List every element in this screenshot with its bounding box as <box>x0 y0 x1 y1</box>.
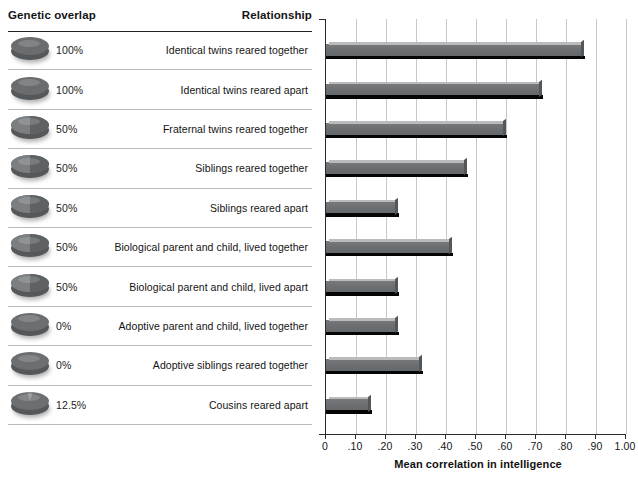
bar-end-cap <box>503 119 506 136</box>
table-row: 100%Identical twins reared apart <box>8 70 312 109</box>
relationship-label: Cousins reared apart <box>209 399 308 411</box>
table-row: 50%Biological parent and child, lived to… <box>8 228 312 267</box>
bar <box>326 318 398 335</box>
gridline <box>626 19 627 434</box>
bar <box>326 279 398 296</box>
relationship-table: Genetic overlap Relationship 100%Identic… <box>0 0 318 479</box>
bar <box>326 357 422 374</box>
disc-top-face <box>11 234 49 252</box>
genetic-overlap-disc-icon <box>10 312 52 340</box>
disc-top-face <box>11 77 49 95</box>
bar-shadow <box>326 95 543 98</box>
x-axis-tick-label: 0 <box>322 440 328 452</box>
disc-top-face <box>11 155 49 173</box>
genetic-overlap-disc-icon <box>10 233 52 261</box>
bar-face <box>326 281 398 293</box>
bar-end-cap <box>449 237 452 254</box>
x-axis-tick <box>505 434 506 439</box>
column-header-relationship: Relationship <box>242 9 312 21</box>
disc-top-face <box>11 37 49 55</box>
bar-shadow <box>326 56 585 59</box>
bar-face <box>326 359 422 371</box>
bar-top-edge <box>329 82 543 85</box>
genetic-overlap-value: 0% <box>56 359 71 371</box>
bar <box>326 82 542 99</box>
bar-end-cap <box>368 394 371 411</box>
bar-shadow <box>326 213 399 216</box>
x-axis-tick-label: .70 <box>528 440 543 452</box>
disc-top-face <box>11 195 49 213</box>
x-axis-tick-label: .30 <box>408 440 423 452</box>
disc-gloss <box>18 79 40 86</box>
x-axis-tick <box>475 434 476 439</box>
x-axis-tick-label: 1.00 <box>615 440 636 452</box>
table-row: 50%Siblings reared together <box>8 149 312 188</box>
relationship-label: Adoptive parent and child, lived togethe… <box>119 320 308 332</box>
bar-face <box>326 84 542 96</box>
genetic-overlap-value: 50% <box>56 241 77 253</box>
bar <box>326 160 467 177</box>
bar-face <box>326 320 398 332</box>
bar <box>326 239 452 256</box>
bar-face <box>326 202 398 214</box>
bar-end-cap <box>581 40 584 57</box>
bar-end-cap <box>419 355 422 372</box>
genetic-overlap-disc-icon <box>10 194 52 222</box>
bar-end-cap <box>464 158 467 175</box>
relationship-label: Biological parent and child, lived apart <box>129 281 308 293</box>
disc-top-face <box>11 116 49 134</box>
relationship-label: Adoptive siblings reared together <box>153 359 308 371</box>
genetic-overlap-disc-icon <box>10 391 52 419</box>
disc-half-segment <box>11 116 49 134</box>
table-body: 100%Identical twins reared together100%I… <box>8 31 312 425</box>
disc-top-face <box>11 313 49 331</box>
x-axis-tick-label: .60 <box>498 440 513 452</box>
disc-wedge-segment <box>26 392 35 401</box>
disc-gloss <box>18 40 40 47</box>
bar-face <box>326 241 452 253</box>
bar-face <box>326 44 584 56</box>
disc-gloss <box>18 315 40 322</box>
bar-shadow <box>326 371 423 374</box>
bar-shadow <box>326 135 507 138</box>
bar-top-edge <box>329 200 399 203</box>
figure-genetic-overlap-correlation: Genetic overlap Relationship 100%Identic… <box>0 0 638 479</box>
table-row: 50%Siblings reared apart <box>8 189 312 228</box>
bar-end-cap <box>395 316 398 333</box>
bar-end-cap <box>539 79 542 96</box>
plot-area <box>325 19 626 434</box>
bar-shadow <box>326 292 399 295</box>
bar-shadow <box>326 174 468 177</box>
genetic-overlap-disc-icon <box>10 351 52 379</box>
genetic-overlap-value: 0% <box>56 320 71 332</box>
bar-top-edge <box>329 397 372 400</box>
bar <box>326 42 584 59</box>
relationship-label: Identical twins reared apart <box>181 84 308 96</box>
x-axis-tick-labels: 0.10.20.30.40.50.60.70.80.901.00 <box>318 440 638 456</box>
genetic-overlap-disc-icon <box>10 76 52 104</box>
disc-half-segment <box>11 155 49 173</box>
bar-face <box>326 399 371 411</box>
bar-face <box>326 162 467 174</box>
genetic-overlap-value: 50% <box>56 281 77 293</box>
bar-top-edge <box>329 42 585 45</box>
table-row: 0%Adoptive siblings reared together <box>8 346 312 385</box>
y-axis-tick <box>319 19 325 20</box>
x-axis-tick <box>445 434 446 439</box>
bar-shadow <box>326 410 372 413</box>
bar-end-cap <box>395 276 398 293</box>
disc-top-face <box>11 352 49 370</box>
column-header-genetic-overlap: Genetic overlap <box>8 9 96 21</box>
genetic-overlap-value: 100% <box>56 84 83 96</box>
bar-end-cap <box>395 197 398 214</box>
x-axis-tick <box>625 434 626 439</box>
bar-top-edge <box>329 357 423 360</box>
table-row: 50%Biological parent and child, lived ap… <box>8 267 312 306</box>
relationship-label: Siblings reared apart <box>210 202 308 214</box>
table-row: 50%Fraternal twins reared together <box>8 110 312 149</box>
table-header: Genetic overlap Relationship <box>8 9 312 32</box>
x-axis-title: Mean correlation in intelligence <box>318 458 638 470</box>
genetic-overlap-value: 50% <box>56 162 77 174</box>
genetic-overlap-value: 100% <box>56 44 83 56</box>
x-axis-tick <box>415 434 416 439</box>
